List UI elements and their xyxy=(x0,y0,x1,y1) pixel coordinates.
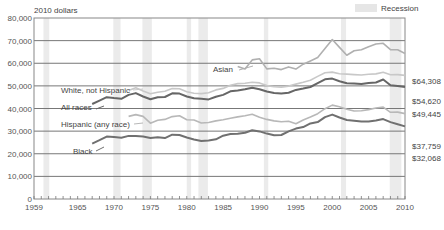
x-tick-label: 1970 xyxy=(105,203,123,212)
series-label: All races xyxy=(61,103,92,112)
series-end-value: $32,068 xyxy=(412,154,441,163)
series-line xyxy=(92,115,405,144)
x-tick-label: 1990 xyxy=(251,203,269,212)
x-tick-label: 2010 xyxy=(396,203,414,212)
series-lines xyxy=(92,40,405,144)
series-label: Asian xyxy=(213,65,233,74)
y-tick-label: 10,000 xyxy=(8,172,33,181)
y-tick-label: 40,000 xyxy=(8,105,33,114)
x-tick-label: 1985 xyxy=(214,203,232,212)
income-chart: 1959196519701975198019851990199520002005… xyxy=(0,0,444,230)
y-axis: 010,00020,00030,00040,00050,00060,00070,… xyxy=(8,14,33,204)
x-tick-label: 1980 xyxy=(178,203,196,212)
y-tick-label: 80,000 xyxy=(8,14,33,23)
series-end-value: $49,445 xyxy=(412,110,441,119)
y-tick-label: 60,000 xyxy=(8,59,33,68)
series-label-leader xyxy=(134,123,143,124)
x-tick-label: 1965 xyxy=(69,203,87,212)
legend-recession-label: Recession xyxy=(381,4,418,13)
series-label: Hispanic (any race) xyxy=(61,120,130,129)
x-tick-label: 1959 xyxy=(25,203,43,212)
legend-recession-swatch xyxy=(355,4,377,12)
series-end-value: $37,759 xyxy=(412,142,441,151)
y-tick-label: 20,000 xyxy=(8,150,33,159)
y-tick-label: 0 xyxy=(28,195,33,204)
series-label-leader xyxy=(96,147,104,151)
y-tick-label: 70,000 xyxy=(8,37,33,46)
series-line xyxy=(238,40,405,70)
x-tick-label: 1975 xyxy=(141,203,159,212)
y-tick-label: 50,000 xyxy=(8,82,33,91)
y-tick-label: 30,000 xyxy=(8,127,33,136)
series-label: Black xyxy=(73,147,94,156)
series-end-value: $64,308 xyxy=(412,77,441,86)
x-tick-label: 2005 xyxy=(360,203,378,212)
series-end-value: $54,620 xyxy=(412,97,441,106)
x-tick-label: 2000 xyxy=(323,203,341,212)
y-axis-label: 2010 dollars xyxy=(34,6,78,15)
x-tick-label: 1995 xyxy=(287,203,305,212)
x-axis: 1959196519701975198019851990199520002005… xyxy=(25,196,414,212)
series-label: White, not Hispanic xyxy=(61,86,130,95)
